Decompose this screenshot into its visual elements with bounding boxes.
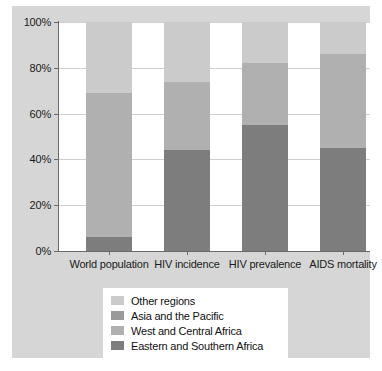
- bar-segment: [86, 237, 132, 251]
- legend-item[interactable]: Eastern and Southern Africa: [111, 338, 280, 353]
- legend-item-label: Asia and the Pacific: [131, 310, 224, 322]
- x-axis-tick-label: HIV prevalence: [229, 258, 301, 270]
- x-axis-tick-label: HIV incidence: [154, 258, 219, 270]
- chart-figure: 0%20%40%60%80%100% World populationHIV i…: [0, 0, 382, 371]
- x-axis-line: [58, 251, 370, 252]
- chart-legend: Other regionsAsia and the PacificWest an…: [103, 288, 288, 359]
- y-axis-line: [58, 21, 59, 252]
- bar-segment: [164, 150, 210, 251]
- legend-swatch-icon: [111, 296, 124, 305]
- y-axis-tick-label: 40%: [30, 153, 51, 165]
- bar-segment: [86, 22, 132, 93]
- bar-hiv-prevalence[interactable]: [242, 22, 288, 251]
- legend-item-label: Eastern and Southern Africa: [131, 340, 263, 352]
- legend-item[interactable]: West and Central Africa: [111, 323, 280, 338]
- x-axis-tick-label: World population: [69, 258, 148, 270]
- bar-segment: [164, 22, 210, 82]
- y-axis-tick-label: 0%: [36, 245, 52, 257]
- x-axis-tick-mark: [343, 251, 344, 255]
- x-axis-tick-mark: [265, 251, 266, 255]
- bar-segment: [242, 125, 288, 251]
- bar-segment: [242, 63, 288, 125]
- x-axis-tick-label: AIDS mortality: [309, 258, 377, 270]
- bar-segment: [86, 93, 132, 237]
- legend-rows: Other regionsAsia and the PacificWest an…: [111, 293, 280, 353]
- legend-swatch-icon: [111, 311, 124, 320]
- x-axis-tick-mark: [187, 251, 188, 255]
- legend-item[interactable]: Other regions: [111, 293, 280, 308]
- y-axis-tick-label: 60%: [30, 108, 51, 120]
- legend-item-label: West and Central Africa: [131, 325, 242, 337]
- bar-segment: [320, 54, 366, 148]
- bar-world-population[interactable]: [86, 22, 132, 251]
- legend-swatch-icon: [111, 326, 124, 335]
- bar-hiv-incidence[interactable]: [164, 22, 210, 251]
- y-axis-tick-label: 20%: [30, 199, 51, 211]
- legend-swatch-icon: [111, 341, 124, 350]
- bar-segment: [320, 22, 366, 54]
- y-axis-tick-label: 80%: [30, 62, 51, 74]
- legend-item[interactable]: Asia and the Pacific: [111, 308, 280, 323]
- legend-item-label: Other regions: [131, 295, 195, 307]
- bar-aids-mortality[interactable]: [320, 22, 366, 251]
- bar-segment: [242, 22, 288, 63]
- y-axis-tick-label: 100%: [24, 16, 51, 28]
- bar-segment: [320, 148, 366, 251]
- x-axis-tick-mark: [109, 251, 110, 255]
- bar-segment: [164, 82, 210, 151]
- plot-area: 0%20%40%60%80%100% World populationHIV i…: [58, 22, 370, 251]
